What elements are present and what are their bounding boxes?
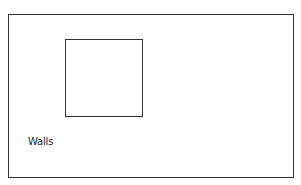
outer-wall-rectangle — [8, 14, 294, 178]
walls-label: Walls — [28, 135, 53, 149]
inner-square — [65, 39, 143, 117]
